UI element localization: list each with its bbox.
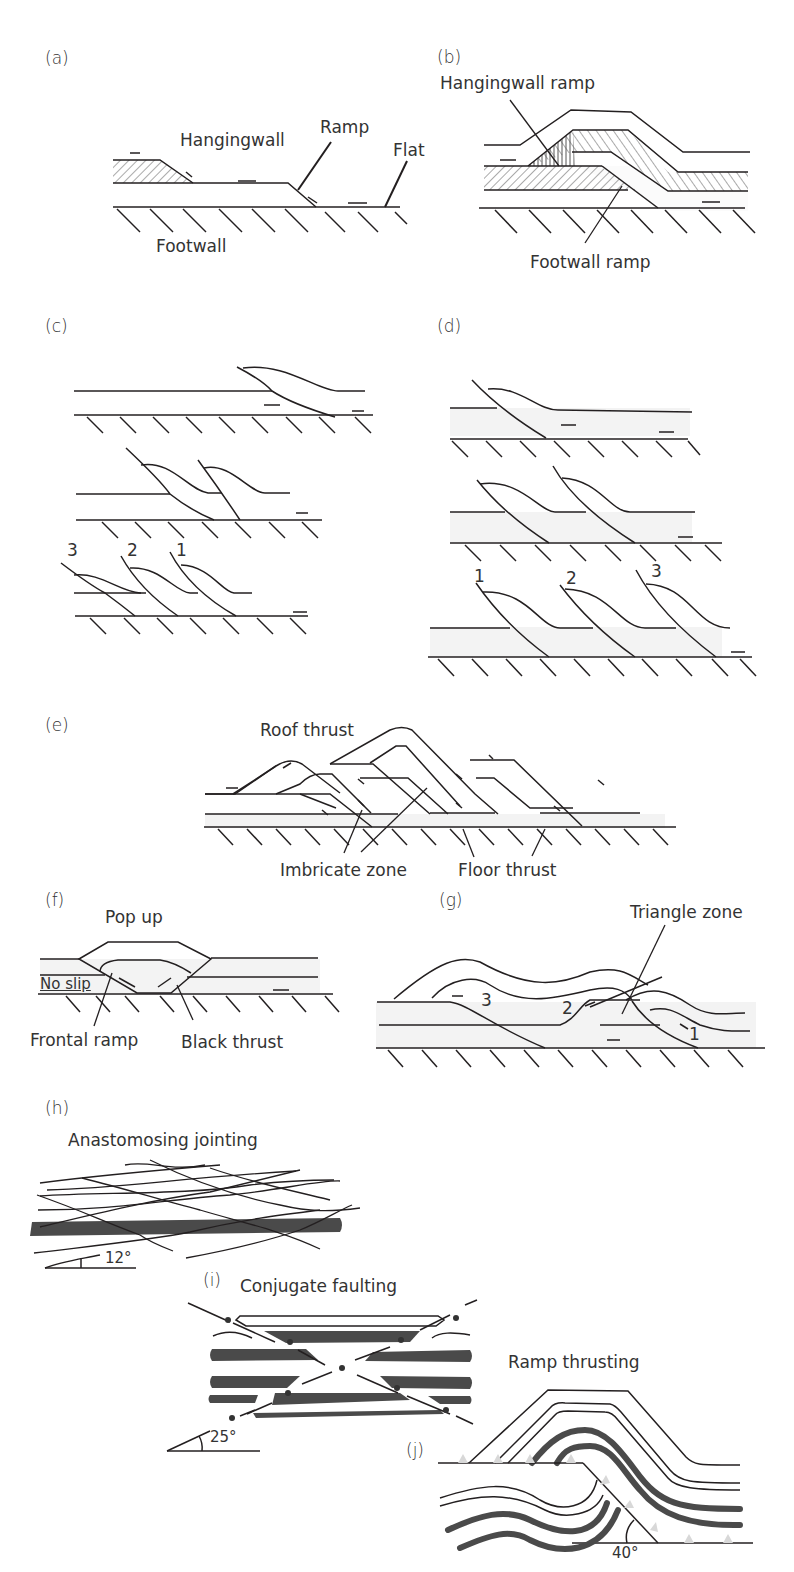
thrust-sequence-2: 2 bbox=[566, 568, 577, 588]
panel-label-d: (d) bbox=[437, 316, 461, 336]
panel-g-diagram bbox=[376, 925, 765, 1067]
frontal-ramp-label: Frontal ramp bbox=[30, 1030, 138, 1050]
panel-label-a: (a) bbox=[45, 48, 69, 68]
panel-label-e: (e) bbox=[45, 715, 69, 735]
thrust-sequence-3: 3 bbox=[481, 990, 492, 1010]
panel-label-j: (j) bbox=[406, 1440, 424, 1460]
thrust-sequence-2: 2 bbox=[562, 998, 573, 1018]
footwall-ramp-label: Footwall ramp bbox=[530, 252, 651, 272]
roof-thrust-label: Roof thrust bbox=[260, 720, 354, 740]
panel-c-diagram bbox=[61, 367, 373, 634]
footwall-label: Footwall bbox=[156, 236, 226, 256]
ramp-label: Ramp bbox=[320, 117, 369, 137]
panel-a-diagram bbox=[113, 142, 407, 232]
hangingwall-ramp-label: Hangingwall ramp bbox=[440, 73, 595, 93]
thrust-sequence-1: 1 bbox=[689, 1024, 700, 1044]
triangle-zone-label: Triangle zone bbox=[630, 902, 743, 922]
angle-25-label: 25° bbox=[210, 1428, 237, 1446]
black-thrust-label: Black thrust bbox=[181, 1032, 283, 1052]
angle-12-label: 12° bbox=[105, 1249, 132, 1267]
flat-label: Flat bbox=[393, 140, 425, 160]
panel-b-diagram bbox=[479, 100, 755, 243]
panel-j-diagram bbox=[438, 1390, 753, 1549]
panel-label-c: (c) bbox=[45, 316, 68, 336]
anastomosing-jointing-title: Anastomosing jointing bbox=[68, 1130, 258, 1150]
ramp-thrusting-title: Ramp thrusting bbox=[508, 1352, 640, 1372]
thrust-sequence-2: 2 bbox=[127, 540, 138, 560]
panel-e-diagram bbox=[204, 728, 676, 858]
imbricate-zone-label: Imbricate zone bbox=[280, 860, 407, 880]
panel-label-b: (b) bbox=[437, 47, 461, 67]
thrust-sequence-1: 1 bbox=[176, 540, 187, 560]
hangingwall-label: Hangingwall bbox=[180, 130, 285, 150]
pop-up-label: Pop up bbox=[105, 907, 163, 927]
thrust-sequence-3: 3 bbox=[67, 540, 78, 560]
thrust-sequence-3: 3 bbox=[651, 561, 662, 581]
angle-40-label: 40° bbox=[612, 1544, 639, 1562]
panel-label-h: (h) bbox=[45, 1098, 69, 1118]
panel-label-g: (g) bbox=[439, 890, 462, 910]
thrust-sequence-1: 1 bbox=[474, 566, 485, 586]
panel-label-f: (f) bbox=[45, 890, 64, 910]
thrust-geometry-figure bbox=[0, 0, 794, 1572]
conjugate-faulting-title: Conjugate faulting bbox=[240, 1276, 397, 1296]
no-slip-label: No slip bbox=[40, 975, 91, 993]
panel-d-diagram bbox=[428, 380, 756, 676]
panel-label-i: (i) bbox=[203, 1270, 221, 1290]
floor-thrust-label: Floor thrust bbox=[458, 860, 556, 880]
panel-h-diagram bbox=[30, 1160, 360, 1268]
